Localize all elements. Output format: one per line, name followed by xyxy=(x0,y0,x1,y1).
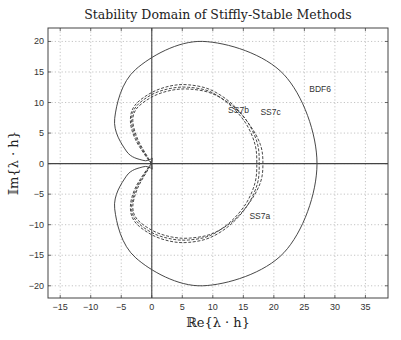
y-tick-label: 20 xyxy=(34,36,44,46)
ticks: −15−10−505101520253035−20−15−10−50510152… xyxy=(29,28,388,312)
x-tick-label: 30 xyxy=(330,302,340,312)
annotation-bdf6: BDF6 xyxy=(309,84,331,94)
x-tick-label: 20 xyxy=(269,302,279,312)
y-tick-label: −15 xyxy=(29,250,44,260)
y-tick-label: 15 xyxy=(34,67,44,77)
y-tick-label: −20 xyxy=(29,281,44,291)
x-tick-label: −5 xyxy=(116,302,126,312)
x-tick-label: 10 xyxy=(208,302,218,312)
x-tick-label: 35 xyxy=(360,302,370,312)
x-tick-label: 15 xyxy=(238,302,248,312)
curve-labels: BDF6SS7bSS7cSS7a xyxy=(228,84,331,222)
chart-title: Stability Domain of Stiffly-Stable Metho… xyxy=(84,7,351,22)
y-tick-label: 10 xyxy=(34,98,44,108)
axes xyxy=(48,28,388,298)
annotation-ss7c: SS7c xyxy=(260,107,281,117)
annotation-ss7b: SS7b xyxy=(228,105,249,115)
x-tick-label: 5 xyxy=(180,302,185,312)
annotation-ss7a: SS7a xyxy=(249,211,270,221)
x-tick-label: 0 xyxy=(149,302,154,312)
y-tick-label: 5 xyxy=(39,128,44,138)
x-tick-label: −10 xyxy=(83,302,98,312)
x-axis-label: ℝe{λ · h} xyxy=(186,315,250,330)
x-tick-label: −15 xyxy=(53,302,68,312)
y-tick-label: −10 xyxy=(29,220,44,230)
y-tick-label: 0 xyxy=(39,159,44,169)
y-axis-label: 𝕀m{λ · h} xyxy=(6,131,21,195)
x-tick-label: 25 xyxy=(299,302,309,312)
y-tick-label: −5 xyxy=(34,189,44,199)
stability-domain-chart: Stability Domain of Stiffly-Stable Metho… xyxy=(0,0,401,340)
plot-frame xyxy=(48,28,388,298)
grid xyxy=(48,28,388,298)
